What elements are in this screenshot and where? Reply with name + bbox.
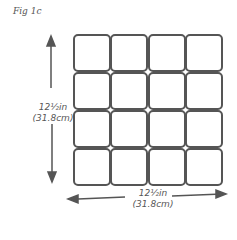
dimension-inches: 12½in — [128, 188, 178, 199]
dimension-cm: (31.8cm) — [128, 199, 178, 210]
vertical-dimension-label: 12½in (31.8cm) — [30, 102, 76, 124]
grid — [74, 35, 222, 185]
dimension-inches: 12½in — [30, 102, 76, 113]
horizontal-dimension-label: 12½in (31.8cm) — [128, 188, 178, 210]
dimension-cm: (31.8cm) — [30, 113, 76, 124]
